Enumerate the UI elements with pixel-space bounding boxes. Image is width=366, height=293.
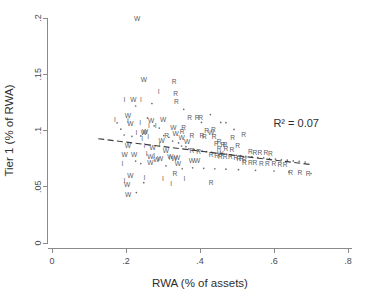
x-tick-label: .6 [270, 256, 278, 266]
y-axis-title: Tier 1 (% of RWA) [3, 84, 15, 176]
data-point-dot [181, 168, 183, 170]
data-point-dot [192, 167, 194, 169]
data-point-dot [163, 135, 165, 137]
data-point-r: R [258, 149, 263, 156]
data-point-r: R [306, 170, 311, 177]
data-point-w: W [134, 15, 141, 22]
data-point-r: R [174, 98, 179, 105]
data-point-dot [185, 146, 187, 148]
r-squared-label: R² = 0.07 [273, 117, 319, 129]
data-point-i: I [169, 154, 171, 161]
data-point-dot [225, 122, 227, 124]
y-tick-label: .1 [33, 127, 43, 135]
data-point-dot [143, 182, 145, 184]
data-points-layer: WWWWWWWWWWWWWWWWWWWWWWWWWWWWWWWWWWRRRRRR… [114, 15, 312, 198]
data-point-r: R [241, 131, 246, 138]
data-point-w: W [184, 138, 191, 145]
data-point-dot [158, 127, 160, 129]
data-point-i: I [121, 160, 123, 167]
data-point-dot [216, 152, 218, 154]
data-point-dot [226, 153, 228, 155]
data-point-dot [263, 157, 265, 159]
data-point-dot [165, 165, 167, 167]
data-point-i: I [148, 122, 150, 129]
plot-canvas: 0.05.1.15.20.2.4.6.8 WWWWWWWWWWWWWWWWWWW… [0, 0, 366, 293]
data-point-dot [214, 168, 216, 170]
data-point-dot [123, 134, 125, 136]
y-tick-label: 0 [33, 240, 43, 245]
data-point-w: W [127, 172, 134, 179]
data-point-r: R [196, 148, 201, 155]
data-point-r: R [230, 134, 235, 141]
data-point-dot [220, 122, 222, 124]
data-point-dot [255, 169, 257, 171]
data-point-dot [310, 173, 312, 175]
data-point-dot [304, 161, 306, 163]
data-point-w: W [147, 159, 154, 166]
data-point-dot [168, 136, 170, 138]
data-point-dot [245, 156, 247, 158]
data-point-r: R [224, 145, 229, 152]
data-point-r: R [180, 128, 185, 135]
data-point-r: R [235, 142, 240, 149]
data-point-r: R [198, 114, 203, 121]
data-point-dot [172, 140, 174, 142]
data-point-dot [210, 114, 212, 116]
data-point-dot [147, 117, 149, 119]
data-point-r: R [172, 78, 177, 85]
data-point-w: W [121, 151, 128, 158]
data-point-dot [140, 163, 142, 165]
data-point-i: I [144, 142, 146, 149]
data-point-i: I [158, 141, 160, 148]
data-point-dot [298, 160, 300, 162]
data-point-r: R [211, 126, 216, 133]
data-point-r: R [298, 169, 303, 176]
x-tick-label: .2 [122, 256, 130, 266]
data-point-r: R [268, 150, 273, 157]
data-point-r: R [173, 90, 178, 97]
data-point-i: I [158, 88, 160, 95]
data-point-r: R [209, 179, 214, 186]
data-point-dot [288, 171, 290, 173]
data-point-w: W [141, 76, 148, 83]
data-point-dot [136, 192, 138, 194]
data-point-i: I [139, 119, 141, 126]
data-point-dot [183, 109, 185, 111]
data-point-i: I [146, 150, 148, 157]
data-point-i: I [162, 175, 164, 182]
data-point-r: R [229, 146, 234, 153]
data-point-i: I [170, 180, 172, 187]
data-point-r: R [252, 159, 257, 166]
data-point-dot [151, 103, 153, 105]
data-point-w: W [125, 191, 132, 198]
data-point-w: W [194, 157, 201, 164]
data-point-i: I [114, 116, 116, 123]
data-point-dot [233, 129, 235, 131]
data-point-dot [178, 142, 180, 144]
data-point-dot [153, 125, 155, 127]
data-point-dot [135, 160, 137, 162]
data-point-r: R [187, 114, 192, 121]
data-point-dot [238, 169, 240, 171]
data-point-r: R [172, 170, 177, 177]
data-point-r: R [217, 145, 222, 152]
x-tick-label: 0 [49, 256, 54, 266]
data-point-dot [120, 128, 122, 130]
y-tick-label: .2 [33, 14, 43, 22]
data-point-r: R [204, 127, 209, 134]
data-point-dot [273, 170, 275, 172]
data-point-dot [201, 122, 203, 124]
data-point-i: I [127, 117, 129, 124]
data-point-r: R [189, 132, 194, 139]
data-point-w: W [160, 116, 167, 123]
data-point-w: W [175, 160, 182, 167]
data-point-dot [275, 158, 277, 160]
data-point-r: R [259, 160, 264, 167]
data-point-dot [140, 135, 142, 137]
data-point-dot [135, 105, 137, 107]
data-point-dot [116, 122, 118, 124]
data-point-r: R [242, 159, 247, 166]
data-point-w: W [131, 151, 138, 158]
axes-layer: 0.05.1.15.20.2.4.6.8 [33, 14, 352, 266]
data-point-i: I [124, 96, 126, 103]
